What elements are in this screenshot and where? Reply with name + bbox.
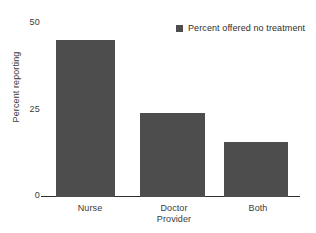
bar-nurse[interactable]: [56, 40, 115, 197]
legend-label: Percent offered no treatment: [188, 23, 305, 33]
bar-doctor[interactable]: [140, 113, 205, 197]
bar-both[interactable]: [224, 142, 288, 197]
x-axis-tick-label-both: Both: [204, 203, 312, 213]
y-axis-tick-label-0: 0: [14, 191, 40, 200]
x-axis-title: Provider: [46, 214, 302, 224]
legend-swatch-icon: [176, 25, 183, 32]
bar-chart: Percent reporting 50 25 0 Nurse Doctor B…: [0, 0, 316, 233]
plot-area: [46, 14, 302, 197]
y-axis-tick-label-25: 25: [14, 105, 40, 114]
legend: Percent offered no treatment: [176, 23, 305, 33]
y-axis-title: Percent reporting: [11, 32, 21, 142]
y-axis-tick-label-50: 50: [14, 18, 40, 27]
